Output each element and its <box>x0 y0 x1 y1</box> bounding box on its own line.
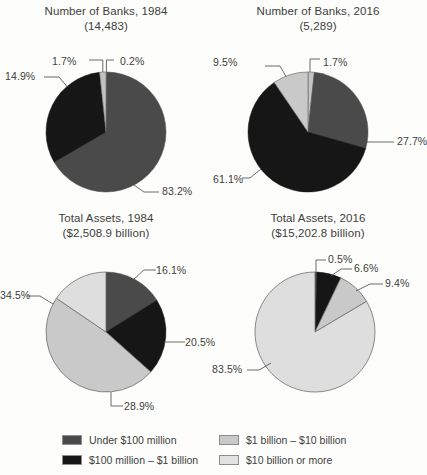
legend-swatch-under-100-million <box>62 435 82 445</box>
pie-chart-number-of-banks-1984: Number of Banks, 1984 (14,483) <box>0 4 212 216</box>
pie-4-label-6-6: 6.6% <box>354 262 378 274</box>
legend-label-100-million-1-billion: $100 million – $1 billion <box>89 454 198 466</box>
legend-item-1-billion-10-billion: $1 billion – $10 billion <box>219 434 346 446</box>
pie-3-label-34-5: 34.5% <box>0 289 30 301</box>
pie-1-label-0-2: 0.2% <box>120 55 144 67</box>
pie-1-label-1-7: 1.7% <box>52 55 76 67</box>
pie-area-2: 9.5% 1.7% 27.7% 61.1% <box>212 4 424 216</box>
pie-svg-2 <box>212 4 424 216</box>
pie-4-label-0-5: 0.5% <box>328 253 352 265</box>
pie-svg-4 <box>212 211 424 423</box>
legend-swatch-10-billion-or-more <box>219 455 239 465</box>
pie-2-label-9-5: 9.5% <box>213 56 237 68</box>
pie-2-label-1-7: 1.7% <box>323 56 347 68</box>
legend-swatch-100-million-1-billion <box>62 455 82 465</box>
pie-chart-number-of-banks-2016: Number of Banks, 2016 (5,289) <box>212 4 424 216</box>
legend-item-under-100-million: Under $100 million <box>62 434 177 446</box>
legend-item-10-billion-or-more: $10 billion or more <box>219 454 332 466</box>
legend-label-under-100-million: Under $100 million <box>89 434 177 446</box>
pie-chart-total-assets-1984: Total Assets, 1984 ($2,508.9 billion) <box>0 211 212 423</box>
pie-area-3: 16.1% 20.5% 28.9% 34.5% <box>0 211 212 423</box>
pie-chart-total-assets-2016: Total Assets, 2016 ($15,202.8 billion) <box>212 211 424 423</box>
pie-area-1: 1.7% 0.2% 14.9% 83.2% <box>0 4 212 216</box>
pie-3-label-28-9: 28.9% <box>124 400 154 412</box>
legend-label-1-billion-10-billion: $1 billion – $10 billion <box>246 434 346 446</box>
legend-item-100-million-1-billion: $100 million – $1 billion <box>62 454 198 466</box>
pie-3-label-16-1: 16.1% <box>156 264 186 276</box>
pie-2-label-61-1: 61.1% <box>213 173 243 185</box>
pie-4-label-9-4: 9.4% <box>385 277 409 289</box>
pie-1-label-83-2: 83.2% <box>162 185 192 197</box>
pie-3-label-20-5: 20.5% <box>185 336 215 348</box>
pie-1-label-14-9: 14.9% <box>5 70 35 82</box>
pie-2-label-27-7: 27.7% <box>397 135 427 147</box>
legend-swatch-1-billion-10-billion <box>219 435 239 445</box>
legend-label-10-billion-or-more: $10 billion or more <box>246 454 332 466</box>
legend: Under $100 million $100 million – $1 bil… <box>0 428 424 475</box>
pie-area-4: 0.5% 6.6% 9.4% 83.5% <box>212 211 424 423</box>
pie-4-label-83-5: 83.5% <box>212 363 242 375</box>
pie-svg-3 <box>0 211 212 423</box>
